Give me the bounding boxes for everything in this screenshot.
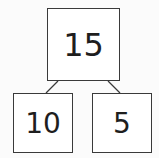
whole-box: 15 — [47, 8, 120, 81]
connector-left — [46, 81, 58, 93]
number-bond-diagram: 15 10 5 — [0, 0, 159, 158]
part-box-right: 5 — [92, 93, 152, 153]
connector-right — [108, 81, 120, 93]
part-value-right: 5 — [113, 107, 131, 140]
part-value-left: 10 — [25, 107, 61, 140]
part-box-left: 10 — [13, 93, 73, 153]
whole-value: 15 — [63, 26, 104, 64]
